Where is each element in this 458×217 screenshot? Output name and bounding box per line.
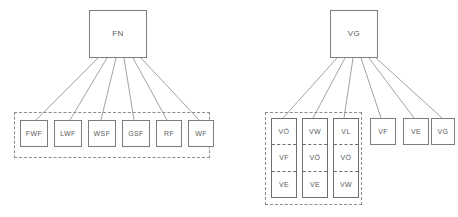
edge-FN-to-LWF: [70, 58, 107, 120]
node-label: VÖ: [310, 154, 321, 161]
stack-cell[interactable]: VE: [303, 171, 327, 197]
leaf-node-fwf[interactable]: FWF: [20, 120, 48, 147]
edge-FN-to-GSF: [124, 58, 134, 120]
node-label: VW: [309, 128, 321, 135]
stack-cell[interactable]: VÖ: [272, 119, 296, 144]
leaf-node-vg[interactable]: VG: [431, 118, 455, 145]
edge-FN-to-FWF: [36, 58, 98, 120]
stack-node-vl[interactable]: VLVÖVW: [333, 118, 359, 198]
edge-VG-to-VW-stack: [313, 58, 345, 118]
leaf-node-rf[interactable]: RF: [156, 120, 182, 147]
node-label: VÖ: [341, 154, 352, 161]
node-label: VF: [279, 154, 289, 161]
node-label: VL: [341, 128, 350, 135]
edge-VG-to-VG-leaf: [376, 58, 442, 118]
node-label: FN: [112, 30, 123, 38]
stack-cell[interactable]: VL: [334, 119, 358, 144]
leaf-node-vf[interactable]: VF: [370, 118, 396, 145]
node-label: VÖ: [279, 128, 290, 135]
diagram-canvas: FN FWFLWFWSFGSFRFWF VG VÖVFVEVWVÖVEVLVÖV…: [0, 0, 458, 217]
node-label: RF: [164, 130, 174, 137]
node-label: GSF: [128, 130, 144, 137]
edge-VG-to-VÖ-stack: [283, 58, 337, 118]
node-label: VG: [438, 128, 449, 135]
node-label: VG: [348, 30, 360, 38]
edge-layer: [0, 0, 458, 217]
edge-VG-to-VF: [361, 58, 381, 118]
node-label: VF: [378, 128, 388, 135]
leaf-node-lwf[interactable]: LWF: [54, 120, 82, 147]
stack-cell[interactable]: VÖ: [303, 144, 327, 170]
stack-cell[interactable]: VE: [272, 171, 296, 197]
node-vg-root[interactable]: VG: [330, 10, 378, 58]
node-label: FWF: [26, 130, 42, 137]
edge-VG-to-VL-stack: [344, 58, 353, 118]
leaf-node-ve[interactable]: VE: [403, 118, 429, 145]
node-label: VE: [310, 181, 320, 188]
node-label: LWF: [60, 130, 75, 137]
edge-FN-to-WF: [141, 58, 199, 120]
leaf-node-wsf[interactable]: WSF: [88, 120, 116, 147]
node-label: WSF: [94, 130, 111, 137]
node-label: WF: [195, 130, 207, 137]
stack-cell[interactable]: VF: [272, 144, 296, 170]
leaf-node-wf[interactable]: WF: [188, 120, 214, 147]
edge-VG-to-VE: [369, 58, 414, 118]
stack-cell[interactable]: VW: [334, 171, 358, 197]
stack-node-vö[interactable]: VÖVFVE: [271, 118, 297, 198]
node-label: VE: [279, 181, 289, 188]
edge-FN-to-WSF: [101, 58, 116, 120]
stack-cell[interactable]: VW: [303, 119, 327, 144]
node-label: VE: [411, 128, 421, 135]
node-label: VW: [340, 181, 352, 188]
leaf-node-gsf[interactable]: GSF: [122, 120, 150, 147]
node-fn-root[interactable]: FN: [89, 10, 147, 58]
edge-FN-to-RF: [133, 58, 167, 120]
stack-node-vw[interactable]: VWVÖVE: [302, 118, 328, 198]
stack-cell[interactable]: VÖ: [334, 144, 358, 170]
